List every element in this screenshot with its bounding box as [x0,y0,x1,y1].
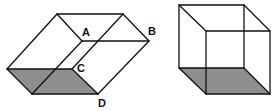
left-solid: A B C D [7,14,156,109]
inner-slant-to-a [57,14,82,41]
figure-canvas: A B C D [0,0,272,111]
label-c: C [77,62,85,74]
right-top-slant [123,14,149,41]
cube-connector-tl [179,5,206,31]
label-b: B [148,25,156,37]
cube-connector-tr [244,5,270,31]
right-cube [179,5,270,94]
label-d: D [98,97,106,109]
label-a: A [82,26,90,38]
left-outer-edge [7,14,57,69]
right-outer-edge [98,41,149,94]
